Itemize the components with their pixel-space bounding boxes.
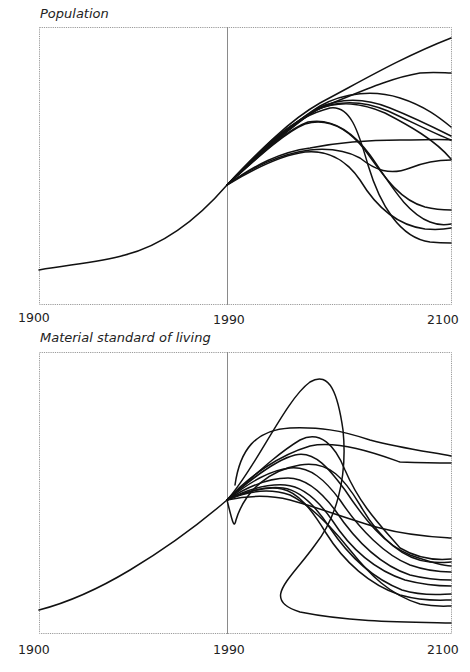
charts-canvas bbox=[0, 0, 470, 672]
living-scenario-line bbox=[227, 464, 451, 562]
population-plot bbox=[39, 27, 452, 305]
population-scenario-line bbox=[227, 38, 451, 185]
population-scenario-line bbox=[227, 121, 451, 225]
living-plot bbox=[39, 352, 452, 634]
living-scenario-line bbox=[227, 491, 451, 606]
living-scenario-line bbox=[227, 488, 451, 595]
population-scenario-line bbox=[227, 140, 451, 185]
population-history-line bbox=[39, 185, 227, 270]
living-history-line bbox=[39, 500, 227, 610]
population-scenario-line bbox=[227, 104, 451, 185]
population-scenario-line bbox=[227, 73, 451, 185]
living-scenario-line bbox=[227, 379, 451, 623]
